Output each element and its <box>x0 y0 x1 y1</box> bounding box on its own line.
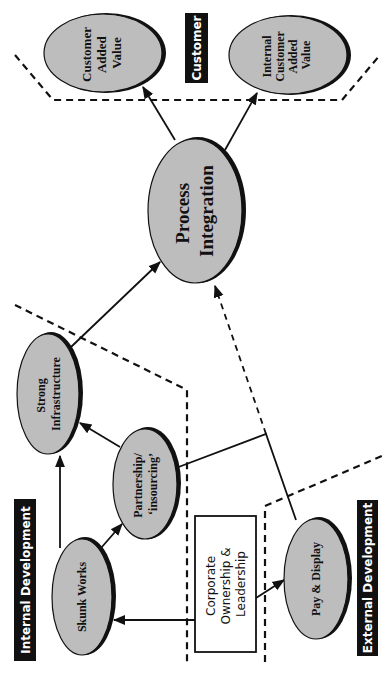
svg-text:Corporate Ownership &: Corporate Ownership & Leadership <box>204 544 248 625</box>
edge-process-to-customer-value <box>143 87 175 140</box>
node-customer-added-value: Customer Added Value <box>44 13 166 93</box>
svg-text:Skunk Works: Skunk Works <box>75 562 89 632</box>
edge-process-to-internal-customer-value <box>225 93 257 150</box>
svg-text:Customer: Customer <box>190 15 204 80</box>
customer-zone-label: Customer <box>185 13 208 83</box>
internal-zone-label: Internal Development <box>14 499 36 661</box>
node-pay-and-display: Pay & Display <box>284 517 352 639</box>
node-strong-infrastructure: Strong Infrastructure <box>17 332 83 454</box>
edge-corporate-to-pay <box>256 580 284 598</box>
node-internal-customer-added-value: Internal Customer Added Value <box>229 15 351 95</box>
node-corporate-ownership-leadership: Corporate Ownership & Leadership <box>195 516 256 652</box>
svg-text:Pay & Display: Pay & Display <box>309 542 323 616</box>
node-skunk-works: Skunk Works <box>52 537 116 655</box>
external-zone-label: External Development <box>357 500 378 656</box>
svg-text:Internal Development: Internal Development <box>19 506 33 654</box>
edge-infrastructure-to-process <box>71 262 160 347</box>
node-process-integration: Process Integration <box>148 137 246 283</box>
process-integration-diagram: Customer Internal Development External D… <box>0 0 390 680</box>
svg-text:Partnership/ ‘insourcing: Partnership/ ‘insourcing’ <box>131 450 160 518</box>
edge-skunk-to-partnership <box>101 524 122 548</box>
node-partnership-insourcing: Partnership/ ‘insourcing’ <box>113 427 181 539</box>
edge-partnership-to-infrastructure <box>80 423 120 447</box>
edge-pay-to-process-dashed <box>215 286 266 434</box>
svg-text:External Development: External Development <box>361 502 375 653</box>
